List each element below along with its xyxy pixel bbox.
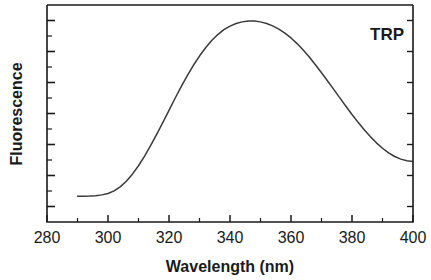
x-tick-label: 340 [217, 229, 244, 246]
figure-container: 280300320340360380400 TRP Wavelength (nm… [0, 0, 431, 280]
y-axis-ticks [47, 21, 413, 207]
spectrum-curve [78, 21, 414, 196]
x-axis-title: Wavelength (nm) [166, 258, 294, 275]
x-axis-tick-labels: 280300320340360380400 [34, 229, 427, 246]
x-tick-label: 380 [339, 229, 366, 246]
series-annotation-trp: TRP [370, 25, 404, 44]
x-tick-label: 360 [278, 229, 305, 246]
x-tick-label: 400 [400, 229, 427, 246]
x-tick-label: 280 [34, 229, 61, 246]
x-tick-label: 300 [95, 229, 122, 246]
plot-frame [47, 5, 413, 222]
axis-spines [47, 5, 413, 222]
x-tick-label: 320 [156, 229, 183, 246]
fluorescence-spectrum-chart: 280300320340360380400 TRP Wavelength (nm… [0, 0, 431, 280]
y-axis-title: Fluorescence [8, 62, 25, 165]
x-axis-ticks [47, 215, 413, 222]
